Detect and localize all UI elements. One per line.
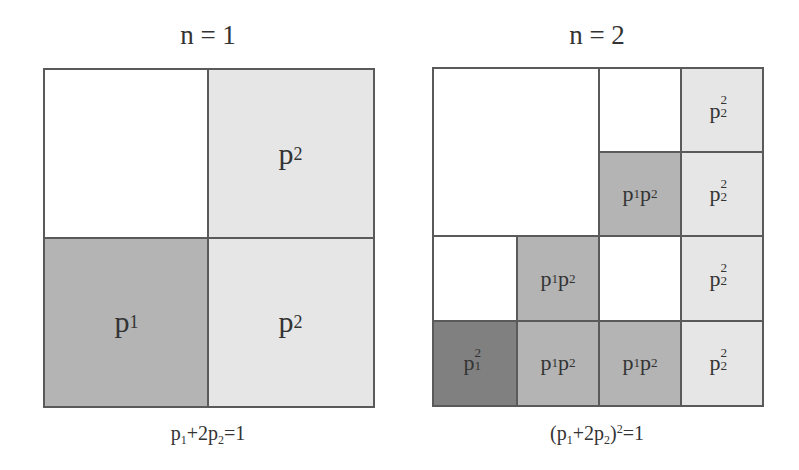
- cell-n2-r1c3: p22: [681, 152, 762, 236]
- panel-n1: p2 p1 p2: [43, 68, 375, 408]
- cell-n2-r3c2: p1p2: [599, 321, 681, 405]
- divider: [598, 69, 600, 405]
- cell-n2-r1c2: p1p2: [599, 152, 681, 236]
- cell-n1-r0c1: p2: [208, 70, 373, 238]
- panel-n1-caption: p1+2p2=1: [108, 422, 308, 448]
- cell-n2-r3c3: p22: [681, 321, 762, 405]
- divider: [434, 235, 762, 237]
- cell-n2-r2c1: p1p2: [517, 236, 599, 321]
- panel-n1-title: n = 1: [108, 20, 308, 51]
- cell-n2-r2c0: [434, 236, 517, 321]
- panel-n2-title: n = 2: [497, 20, 697, 51]
- cell-n2-r0c2: [599, 69, 681, 152]
- divider: [680, 69, 682, 405]
- divider-horizontal: [45, 237, 373, 239]
- cell-n2-r0c3: p22: [681, 69, 762, 152]
- cell-n2-r3c1: p1p2: [517, 321, 599, 405]
- cell-n1-r1c1: p2: [208, 238, 373, 406]
- cell-n2-r2c2: [599, 236, 681, 321]
- cell-n2-big-white: [434, 69, 599, 236]
- panel-n2-caption: (p1+2p2)2=1: [497, 422, 697, 448]
- divider: [434, 320, 762, 322]
- divider: [599, 151, 762, 153]
- panel-n2: p22 p1p2 p22 p1p2 p22 p21 p1p2 p1p2 p22: [432, 67, 764, 407]
- cell-n2-r3c0: p21: [434, 321, 517, 405]
- cell-n1-r0c0: [45, 70, 208, 238]
- cell-n1-r1c0: p1: [45, 238, 208, 406]
- cell-n2-r2c3: p22: [681, 236, 762, 321]
